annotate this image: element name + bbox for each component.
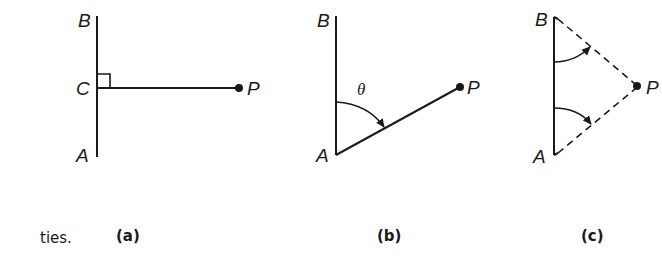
trailing-text: ties. xyxy=(40,229,72,247)
label-a: A xyxy=(532,146,546,167)
label-b: B xyxy=(78,10,91,31)
point-p xyxy=(633,82,641,90)
dashed-bp xyxy=(558,19,635,84)
caption-b: (b) xyxy=(377,227,401,245)
label-a: A xyxy=(315,145,329,166)
panel-a: B C A P xyxy=(75,10,260,166)
label-b: B xyxy=(317,10,330,31)
panel-b: B A P θ xyxy=(315,10,480,166)
dashed-ap xyxy=(558,89,635,153)
label-p: P xyxy=(646,77,659,98)
label-b: B xyxy=(535,9,548,30)
angle-arc-arrow xyxy=(336,102,384,127)
figure-canvas: B C A P B A P θ B A P ties. (a) (b) (c) xyxy=(0,0,662,260)
segment-ap xyxy=(336,87,460,155)
point-p xyxy=(235,84,243,92)
label-theta: θ xyxy=(357,80,365,99)
upper-arc-arrow xyxy=(554,47,590,62)
caption-c: (c) xyxy=(581,227,604,245)
caption-a: (a) xyxy=(116,227,140,245)
label-p: P xyxy=(467,77,480,98)
label-c: C xyxy=(76,78,90,99)
panel-c: B A P xyxy=(532,9,659,167)
right-angle-marker xyxy=(97,74,110,88)
label-a: A xyxy=(75,145,89,166)
point-p xyxy=(456,83,464,91)
label-p: P xyxy=(247,78,260,99)
lower-arc-arrow xyxy=(554,108,591,124)
